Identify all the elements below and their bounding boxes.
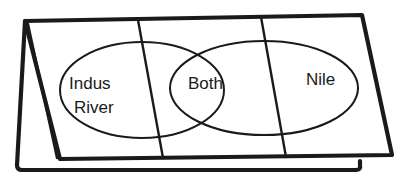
set-label-left-line2: River	[74, 98, 114, 117]
set-label-right: Nile	[306, 70, 335, 89]
panel-divider-right	[261, 17, 286, 157]
venn-foldable-diagram: Indus River Both Nile	[0, 0, 401, 175]
fold-edge-line	[28, 24, 57, 158]
set-label-overlap: Both	[188, 74, 223, 93]
set-label-left-line1: Indus	[69, 74, 111, 93]
back-flap-outline	[17, 21, 360, 170]
